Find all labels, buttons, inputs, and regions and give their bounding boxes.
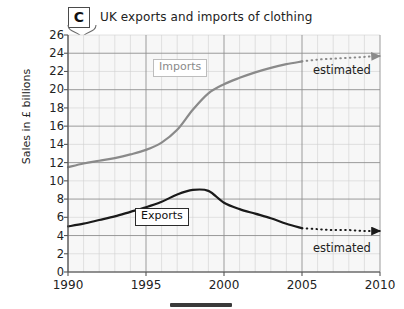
chart-figure: C UK exports and imports of clothing Sal… — [0, 0, 404, 309]
annotation-exports-estimated: estimated — [313, 241, 371, 255]
annotation-imports-estimated: estimated — [313, 63, 371, 77]
footer-bar-fragment — [170, 303, 232, 307]
series-label-imports: Imports — [153, 59, 207, 77]
plot-area — [0, 0, 404, 309]
series-label-exports: Exports — [135, 208, 189, 226]
